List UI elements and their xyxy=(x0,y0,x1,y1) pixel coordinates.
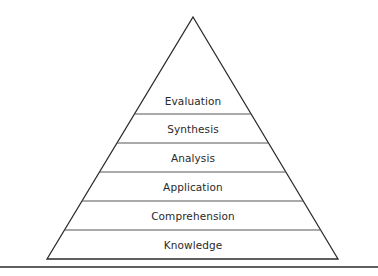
level-knowledge: Knowledge xyxy=(0,238,378,252)
pyramid-diagram xyxy=(0,0,378,276)
level-application: Application xyxy=(0,180,378,194)
level-comprehension: Comprehension xyxy=(0,209,378,223)
level-synthesis: Synthesis xyxy=(0,122,378,136)
level-evaluation: Evaluation xyxy=(0,94,378,108)
level-analysis: Analysis xyxy=(0,151,378,165)
